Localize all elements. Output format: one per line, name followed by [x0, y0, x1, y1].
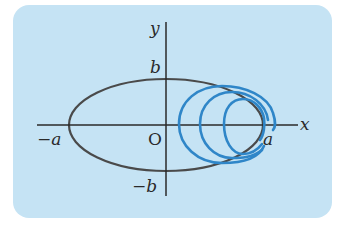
origin-label: O: [148, 129, 162, 149]
tick-label-neg-b: −b: [132, 176, 157, 196]
x-axis-label: x: [300, 114, 310, 134]
tick-label-neg-a: −a: [37, 129, 61, 149]
ellipse-diagram: y b −a O a x −b: [0, 0, 345, 226]
tick-label-b: b: [150, 57, 161, 77]
tick-label-a: a: [263, 129, 273, 149]
y-axis-label: y: [149, 18, 160, 38]
